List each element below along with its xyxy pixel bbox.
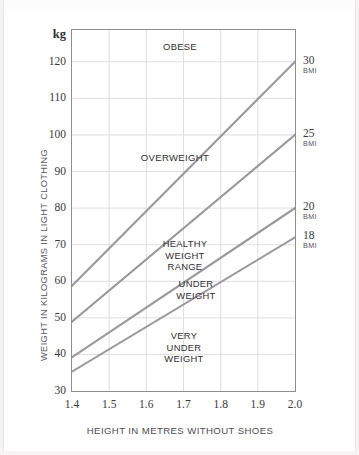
bmi-axis-value: 18 (303, 229, 349, 241)
x-tick-label: 1.5 (89, 398, 129, 410)
x-tick-label: 2.0 (275, 398, 315, 410)
bmi-axis-label-25: 25 BMI (303, 127, 349, 148)
chart-title-cropped: FORMULA FOR CALCULATING HEALTHY WEIGHT R… (4, 0, 355, 9)
y-tick-label: 90 (36, 165, 66, 177)
y-tick-label: 30 (36, 384, 66, 396)
bmi-axis-label-30: 30 BMI (303, 54, 349, 75)
y-tick-label: 70 (36, 238, 66, 250)
zone-label-obese: OBESE (120, 41, 240, 53)
chart-page: FORMULA FOR CALCULATING HEALTHY WEIGHT R… (0, 0, 359, 455)
bmi-axis-label-18: 18 BMI (303, 229, 349, 250)
y-tick-label: 100 (36, 128, 66, 140)
y-tick-label: 40 (36, 347, 66, 359)
zone-label-overweight: OVERWEIGHT (110, 152, 240, 164)
x-tick-label: 1.6 (126, 398, 166, 410)
page-edge-right (355, 0, 359, 455)
chart-title-text: FORMULA FOR CALCULATING HEALTHY WEIGHT R… (4, 0, 355, 2)
x-tick-label: 1.9 (238, 398, 278, 410)
bmi-axis-value: 30 (303, 54, 349, 66)
zone-label-healthy-weight-range: HEALTHY WEIGHT RANGE (130, 238, 240, 273)
x-tick-label: 1.7 (164, 398, 204, 410)
y-tick-label: 120 (36, 55, 66, 67)
x-tick-label: 1.8 (201, 398, 241, 410)
y-tick-label: 110 (36, 91, 66, 103)
page-edge-left (0, 0, 4, 455)
bmi-axis-value: 20 (303, 200, 349, 212)
y-axis-unit: kg (40, 27, 66, 42)
x-axis-title: HEIGHT IN METRES WITHOUT SHOES (40, 425, 320, 436)
page-edge-bottom (0, 451, 359, 455)
zone-label-very-under-weight: VERY UNDER WEIGHT (134, 330, 234, 365)
y-tick-label: 60 (36, 274, 66, 286)
bmi-axis-unit: BMI (303, 139, 349, 148)
bmi-axis-label-20: 20 BMI (303, 200, 349, 221)
zone-label-under-weight: UNDER WEIGHT (146, 278, 246, 301)
y-tick-label: 50 (36, 311, 66, 323)
y-tick-label: 80 (36, 201, 66, 213)
x-tick-label: 1.4 (52, 398, 92, 410)
bmi-axis-unit: BMI (303, 241, 349, 250)
bmi-axis-unit: BMI (303, 212, 349, 221)
bmi-axis-unit: BMI (303, 66, 349, 75)
bmi-axis-value: 25 (303, 127, 349, 139)
